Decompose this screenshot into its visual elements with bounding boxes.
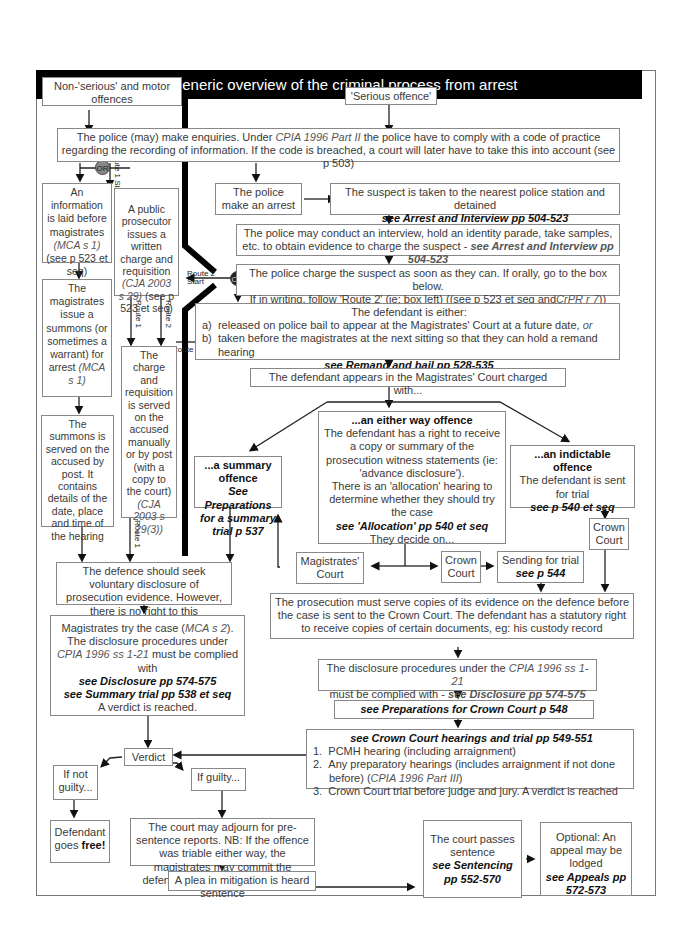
appeal-box: Optional: An appeal may be lodged see Ap…: [540, 822, 632, 896]
prosecution-serve-box: The prosecution must serve copies of its…: [270, 593, 634, 639]
information-box: An information is laid before magistrate…: [42, 183, 112, 263]
plea-mitigation-box: A plea in mitigation is heard: [168, 871, 316, 891]
either-way-box: ...an either way offence The defendant h…: [318, 411, 506, 544]
prep-crown-court-box: see Preparations for Crown Court p 548: [334, 700, 594, 719]
sentence-box: The court passes sentence see Sentencing…: [423, 820, 522, 898]
suspect-taken-box: The suspect is taken to the nearest poli…: [330, 183, 620, 215]
magistrates-try-box: Magistrates try the case (MCA s 2). The …: [50, 615, 245, 716]
police-charge-box: The police charge the suspect as soon as…: [236, 264, 620, 296]
summons-box: The magistrates issue a summons (or some…: [42, 279, 112, 397]
non-serious-box: Non-'serious' and motor offences: [42, 77, 182, 106]
defendant-either-box: The defendant is either: a) released on …: [195, 303, 620, 360]
serious-offence-box: 'Serious offence': [345, 87, 437, 105]
route2-start-label: Route 2 Start: [187, 270, 221, 286]
interview-box: The police may conduct an interview, hol…: [236, 224, 620, 256]
enquiries-box: The police (may) make enquiries. Under C…: [57, 128, 620, 162]
public-prosecutor-box: A public prosecutor issues a written cha…: [114, 188, 179, 296]
crown-disclosure-box: The disclosure procedures under the CPIA…: [318, 659, 597, 691]
sending-for-trial-box: Sending for trial see p 544: [497, 551, 584, 583]
not-guilty-box: If not guilty...: [53, 765, 98, 800]
crown-court-mid-box: Crown Court: [441, 551, 481, 583]
magistrates-court-box: Magistrates' Court: [296, 552, 364, 584]
verdict-box: Verdict: [124, 748, 173, 766]
voluntary-disclosure-box: The defence should seek voluntary disclo…: [56, 562, 232, 605]
police-arrest-box: The police make an arrest: [215, 183, 302, 215]
adjourn-box: The court may adjourn for pre-sentence r…: [130, 818, 315, 866]
charge-served-box: The charge and requisition is served on …: [121, 346, 177, 518]
or-badge-top: OR: [95, 160, 110, 175]
non-serious-offences-box: [42, 106, 182, 110]
crown-court-right-box: Crown Court: [589, 518, 629, 550]
indictable-box: ...an indictable offence The defendant i…: [510, 445, 635, 508]
summary-offence-box: ...a summary offence See Preparations fo…: [194, 456, 282, 508]
crown-hearings-box: see Crown Court hearings and trial pp 54…: [306, 729, 634, 789]
goes-free-box: Defendant goes free!: [50, 820, 110, 863]
summons-served-box: The summons is served on the accused by …: [41, 415, 114, 527]
appears-box: The defendant appears in the Magistrates…: [250, 368, 566, 387]
guilty-box: If guilty...: [191, 768, 246, 791]
